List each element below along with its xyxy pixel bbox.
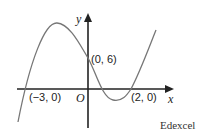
y-intercept-label: (0, 6) (91, 53, 117, 65)
x-axis-label: x (167, 92, 174, 106)
source-label: Edexcel (160, 119, 195, 131)
cubic-curve (18, 23, 156, 122)
origin-label: O (76, 91, 85, 105)
x-intercept-right-label: (2, 0) (131, 91, 157, 103)
cubic-graph: y x O (0, 6) (−3, 0) (2, 0) Edexcel (0, 0, 202, 133)
x-intercept-left-label: (−3, 0) (29, 91, 61, 103)
y-axis-arrow-icon (84, 13, 92, 22)
y-axis-label: y (75, 12, 82, 26)
